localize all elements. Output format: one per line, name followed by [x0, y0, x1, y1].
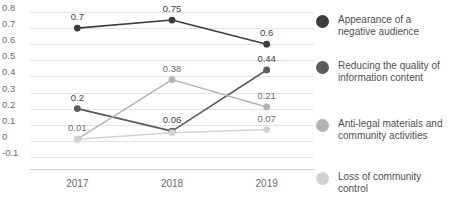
data-point-label: 0.2	[71, 93, 84, 103]
data-point-marker	[74, 136, 81, 143]
data-point-marker	[263, 67, 270, 74]
data-point-marker	[263, 126, 270, 133]
legend-marker-icon	[316, 61, 329, 74]
data-point-label: 0.6	[260, 28, 273, 38]
data-point-label: 0.75	[163, 4, 182, 14]
chart-legend: Appearance of a negative audienceReducin…	[316, 8, 454, 198]
data-point-label: 0.07	[257, 114, 276, 124]
legend-item-label: Reducing the quality of information cont…	[338, 60, 450, 84]
legend-item-label: Appearance of a negative audience	[338, 14, 450, 38]
legend-item[interactable]: Appearance of a negative audience	[316, 14, 454, 38]
data-point-marker	[169, 76, 176, 83]
series-line	[77, 20, 266, 44]
data-point-label: 0.01	[68, 123, 87, 133]
data-point-label: 0.21	[257, 91, 276, 101]
legend-item[interactable]: Loss of community control	[316, 171, 454, 195]
plot-area: 0.80.70.60.50.40.30.20.10-0.1 2017201820…	[0, 0, 320, 200]
legend-marker-icon	[316, 15, 329, 28]
data-point-marker	[169, 17, 176, 24]
data-point-marker	[74, 105, 81, 112]
data-point-label: 0.7	[71, 12, 84, 22]
data-point-marker	[74, 25, 81, 32]
legend-marker-icon	[316, 119, 329, 132]
legend-marker-icon	[316, 172, 329, 185]
data-point-marker	[263, 104, 270, 111]
data-point-marker	[263, 41, 270, 48]
data-point-marker	[169, 129, 176, 136]
line-chart: 0.80.70.60.50.40.30.20.10-0.1 2017201820…	[0, 0, 454, 200]
legend-item[interactable]: Reducing the quality of information cont…	[316, 60, 454, 84]
legend-item-label: Loss of community control	[338, 171, 450, 195]
legend-item[interactable]: Anti-legal materials and community activ…	[316, 118, 454, 142]
legend-item-label: Anti-legal materials and community activ…	[338, 118, 450, 142]
data-point-label: 0.38	[163, 64, 182, 74]
data-point-label: 0.44	[257, 54, 276, 64]
data-point-label: 0.06	[163, 115, 182, 125]
